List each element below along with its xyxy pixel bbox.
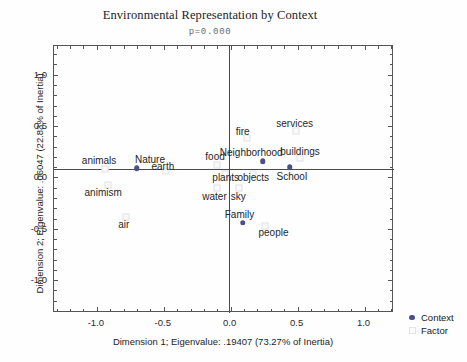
x-tick-top (257, 46, 258, 49)
x-tick (217, 309, 218, 312)
y-tick-label: -1.0 (19, 274, 47, 285)
x-tick (83, 309, 84, 312)
y-tick (54, 95, 57, 96)
y-tick-right (390, 239, 393, 240)
y-tick (54, 147, 57, 148)
x-tick-top (365, 46, 366, 50)
factor-data-point (214, 162, 221, 169)
x-tick-label: 0.0 (223, 317, 236, 328)
context-data-point (287, 164, 293, 170)
x-tick-top (231, 46, 232, 50)
point-label: animals (82, 155, 116, 166)
x-tick-top (177, 46, 178, 49)
y-tick-label: 0.0 (19, 171, 47, 182)
x-tick-top (70, 46, 71, 49)
x-tick (365, 307, 366, 311)
y-tick-label: -0.5 (19, 222, 47, 233)
y-tick (54, 157, 57, 158)
y-tick (54, 260, 57, 261)
x-tick (150, 309, 151, 312)
y-tick-right (390, 147, 393, 148)
context-data-point (260, 158, 266, 164)
x-tick-top (271, 46, 272, 49)
x-tick-top (150, 46, 151, 49)
y-tick-label: 1.0 (19, 68, 47, 79)
y-tick (54, 280, 58, 281)
x-axis-label: Dimension 1; Eigenvalue: .19407 (73.27% … (53, 336, 393, 347)
factor-data-point (101, 166, 108, 173)
point-label: people (258, 227, 288, 238)
x-tick (70, 309, 71, 312)
x-tick (378, 309, 379, 312)
x-tick-top (244, 46, 245, 49)
point-label: Nature (135, 154, 165, 165)
y-tick (54, 311, 57, 312)
x-tick (284, 309, 285, 312)
x-tick (271, 309, 272, 312)
y-tick (54, 177, 58, 178)
y-tick-right (388, 126, 392, 127)
x-tick-top (298, 46, 299, 50)
x-tick-top (217, 46, 218, 49)
y-tick (54, 249, 57, 250)
y-tick (54, 75, 58, 76)
y-tick-right (390, 219, 393, 220)
x-tick (338, 309, 339, 312)
point-label: Neighborhood (220, 147, 283, 158)
x-tick (324, 309, 325, 312)
y-tick-right (390, 188, 393, 189)
page-title: Environmental Representation by Context (0, 8, 420, 23)
context-marker-icon (405, 315, 419, 321)
y-tick (54, 64, 57, 65)
x-tick (351, 309, 352, 312)
context-data-point (134, 165, 140, 171)
chart-subtitle-pvalue: p=0.000 (0, 27, 420, 37)
x-tick (110, 309, 111, 312)
x-tick (311, 309, 312, 312)
y-tick-right (390, 260, 393, 261)
x-tick (137, 309, 138, 312)
point-label: objects (237, 172, 269, 183)
point-label: sky (231, 191, 246, 202)
x-tick-label: -1.0 (88, 317, 104, 328)
x-tick (204, 309, 205, 312)
y-tick-right (390, 116, 393, 117)
y-tick-right (390, 208, 393, 209)
y-tick-right (390, 290, 393, 291)
x-tick-top (378, 46, 379, 49)
x-tick (97, 307, 98, 311)
x-tick (57, 309, 58, 312)
x-tick-top (351, 46, 352, 49)
x-tick-label: 1.0 (357, 317, 370, 328)
y-tick-right (390, 106, 393, 107)
y-tick-right (390, 54, 393, 55)
y-tick-label: 0.5 (19, 120, 47, 131)
y-tick (54, 106, 57, 107)
y-tick-right (390, 157, 393, 158)
point-label: Family (225, 209, 254, 220)
y-tick (54, 85, 57, 86)
x-tick-top (324, 46, 325, 49)
y-tick (54, 126, 58, 127)
x-tick (124, 309, 125, 312)
y-tick-right (390, 64, 393, 65)
y-tick (54, 188, 57, 189)
x-tick (177, 309, 178, 312)
point-label: air (118, 219, 129, 230)
y-tick-right (390, 198, 393, 199)
x-tick-top (391, 46, 392, 49)
correspondence-analysis-figure: Environmental Representation by Context … (0, 0, 467, 362)
x-tick (257, 309, 258, 312)
point-label: plants (212, 172, 239, 183)
point-label: buildings (280, 146, 319, 157)
y-tick (54, 136, 57, 137)
x-tick-top (57, 46, 58, 49)
y-tick (54, 219, 57, 220)
point-label: services (276, 118, 313, 129)
x-tick (231, 307, 232, 311)
y-tick (54, 239, 57, 240)
context-data-point (240, 220, 246, 226)
x-tick-top (110, 46, 111, 49)
x-tick-top (284, 46, 285, 49)
x-tick-top (97, 46, 98, 50)
